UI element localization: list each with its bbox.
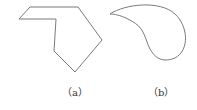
- label-a: （a）: [62, 84, 88, 99]
- curve-shape-b: [110, 5, 186, 60]
- label-b: （b）: [148, 84, 174, 99]
- polygon-shape-a: [19, 7, 102, 72]
